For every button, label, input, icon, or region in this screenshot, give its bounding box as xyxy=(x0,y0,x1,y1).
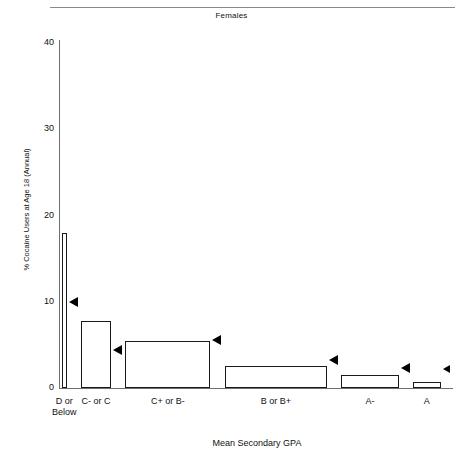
marker-triangle-5 xyxy=(401,363,410,373)
header-divider xyxy=(50,7,455,8)
bar-a- xyxy=(341,375,398,388)
x-category-label-3: C+ or B- xyxy=(128,396,208,407)
chart-figure: Females % Cocaine Users at Age 18 (Annua… xyxy=(0,0,463,467)
x-category-line: A xyxy=(387,396,463,407)
y-tick-label-30: 30 xyxy=(20,124,54,133)
marker-triangle-1 xyxy=(69,297,78,307)
y-axis-title: % Cocaine Users at Age 18 (Annual) xyxy=(22,110,31,310)
y-tick-label-40: 40 xyxy=(20,38,54,47)
x-category-line: B or B+ xyxy=(236,396,316,407)
chart-title: Females xyxy=(0,11,463,20)
x-category-line: Below xyxy=(24,407,104,418)
y-axis-line xyxy=(59,40,60,389)
y-tick-label-0: 0 xyxy=(20,383,54,392)
x-category-line: C- or C xyxy=(56,396,136,407)
marker-triangle-6 xyxy=(443,365,450,373)
x-category-label-2: C- or C xyxy=(56,396,136,407)
x-axis-line xyxy=(59,388,453,389)
y-tick-label-20: 20 xyxy=(20,211,54,220)
x-axis-title: Mean Secondary GPA xyxy=(60,438,454,448)
x-category-label-4: B or B+ xyxy=(236,396,316,407)
bar-a xyxy=(413,382,441,388)
bar-b-or-b- xyxy=(225,366,327,388)
y-tick-label-10: 10 xyxy=(20,297,54,306)
marker-triangle-2 xyxy=(113,345,122,355)
bar-d-or-below xyxy=(62,233,67,388)
x-category-label-6: A xyxy=(387,396,463,407)
bar-c-or-b- xyxy=(125,341,210,388)
marker-triangle-4 xyxy=(329,355,338,365)
x-category-line: C+ or B- xyxy=(128,396,208,407)
bar-c-or-c xyxy=(81,321,111,388)
marker-triangle-3 xyxy=(212,335,221,345)
